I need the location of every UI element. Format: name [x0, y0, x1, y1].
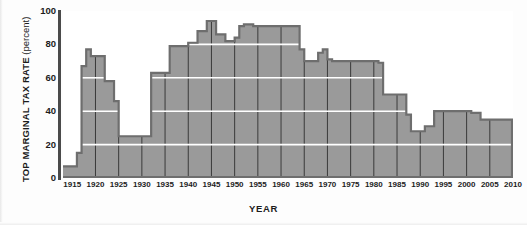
- y-axis-spine: [58, 10, 61, 180]
- x-tick-label: 1925: [110, 181, 128, 189]
- x-axis-label: YEAR: [0, 203, 527, 214]
- x-tick-label: 2000: [458, 181, 476, 189]
- chart-figure: TOP MARGINAL TAX RATE (percent) 02040608…: [0, 0, 527, 225]
- x-axis-ticks: 1915192019251930193519401945195019551960…: [0, 181, 527, 195]
- x-tick-label: 2005: [481, 181, 499, 189]
- x-tick-label: 1950: [226, 181, 244, 189]
- x-tick-label: 1990: [411, 181, 429, 189]
- x-tick-label: 1975: [342, 181, 360, 189]
- x-tick-label: 1945: [203, 181, 221, 189]
- y-axis-ticks: 020406080100: [28, 0, 56, 190]
- x-tick-label: 1920: [87, 181, 105, 189]
- x-tick-label: 1930: [133, 181, 151, 189]
- x-tick-label: 2010: [504, 181, 522, 189]
- x-tick-label: 1980: [365, 181, 383, 189]
- x-tick-label: 1915: [63, 181, 81, 189]
- x-tick-label: 1970: [319, 181, 337, 189]
- x-tick-label: 1955: [249, 181, 267, 189]
- y-tick-label: 40: [30, 106, 56, 116]
- x-tick-label: 1985: [388, 181, 406, 189]
- y-axis-label-container: TOP MARGINAL TAX RATE (percent): [0, 0, 26, 190]
- y-tick-label: 100: [30, 6, 56, 16]
- x-tick-label: 1995: [435, 181, 453, 189]
- x-tick-label: 1965: [295, 181, 313, 189]
- x-tick-label: 1960: [272, 181, 290, 189]
- y-tick-label: 60: [30, 73, 56, 83]
- y-tick-label: 80: [30, 39, 56, 49]
- y-tick-label: 20: [30, 140, 56, 150]
- x-tick-label: 1940: [179, 181, 197, 189]
- chart-svg: [63, 11, 513, 178]
- x-tick-label: 1935: [156, 181, 174, 189]
- plot-area: [63, 11, 513, 178]
- page-edge-shade-bottom: [0, 222, 527, 225]
